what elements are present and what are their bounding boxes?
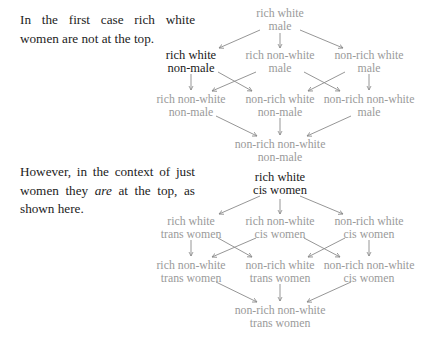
node-non-rich-white-non-male: non-rich whitenon-male <box>245 93 314 118</box>
node-non-rich-white-trans-women: non-rich whitetrans women <box>245 259 314 284</box>
node-non-rich-white-cis-women: non-rich whitecis women <box>334 215 403 240</box>
node-non-rich-non-white-trans-women: non-rich non-whitetrans women <box>235 304 326 329</box>
node-non-rich-non-white-male: non-rich non-whitemale <box>324 93 415 118</box>
node-non-rich-non-white-non-male: non-rich non-whitenon-male <box>235 138 326 163</box>
node-non-rich-non-white-cis-women: non-rich non-whitecis women <box>324 259 415 284</box>
node-rich-white-male: rich whitemale <box>256 7 304 32</box>
node-rich-non-white-cis-women: rich non-whitecis women <box>245 215 314 240</box>
node-rich-non-white-male: rich non-whitemale <box>245 49 314 74</box>
node-rich-non-white-trans-women: rich non-whitetrans women <box>156 259 225 284</box>
node-rich-non-white-non-male: rich non-whitenon-male <box>156 93 225 118</box>
node-non-rich-white-male: non-rich whitemale <box>334 49 403 74</box>
node-rich-white-non-male: rich whitenon-male <box>166 49 216 74</box>
node-rich-white-trans-women: rich whitetrans women <box>161 215 222 240</box>
node-rich-white-cis-women: rich whitecis women <box>253 171 307 196</box>
